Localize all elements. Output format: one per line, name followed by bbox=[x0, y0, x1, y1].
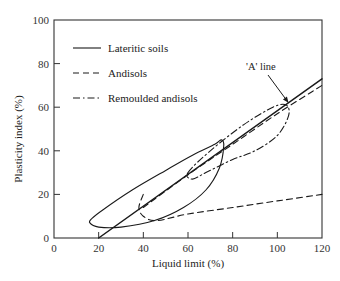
legend-label: Andisols bbox=[108, 67, 147, 79]
y-tick-label: 0 bbox=[44, 232, 50, 244]
x-tick-label: 60 bbox=[183, 242, 195, 254]
legend: Lateritic soilsAndisolsRemoulded andisol… bbox=[73, 42, 198, 104]
y-tick-label: 60 bbox=[38, 101, 50, 113]
x-tick-label: 0 bbox=[51, 242, 57, 254]
y-tick-label: 40 bbox=[38, 145, 50, 157]
legend-label: Remoulded andisols bbox=[108, 92, 198, 104]
series-lateritic-soils-envelope bbox=[89, 140, 224, 228]
x-axis-title: Liquid limit (%) bbox=[152, 257, 224, 270]
x-tick-label: 80 bbox=[227, 242, 239, 254]
y-tick-label: 100 bbox=[33, 14, 50, 26]
y-tick-label: 20 bbox=[38, 188, 50, 200]
y-tick-label: 80 bbox=[38, 58, 50, 70]
x-tick-label: 40 bbox=[138, 242, 150, 254]
x-tick-label: 120 bbox=[314, 242, 331, 254]
a-line-label: 'A' line bbox=[246, 61, 276, 72]
x-tick-label: 100 bbox=[269, 242, 286, 254]
x-tick-label: 20 bbox=[93, 242, 105, 254]
arrowhead-icon bbox=[283, 97, 289, 103]
axes: 020406080100120020406080100Liquid limit … bbox=[12, 14, 331, 270]
annotations: 'A' line bbox=[246, 61, 289, 103]
legend-label: Lateritic soils bbox=[108, 42, 168, 54]
plasticity-chart: 020406080100120020406080100Liquid limit … bbox=[0, 0, 340, 281]
y-axis-title: Plasticity index (%) bbox=[12, 95, 25, 183]
